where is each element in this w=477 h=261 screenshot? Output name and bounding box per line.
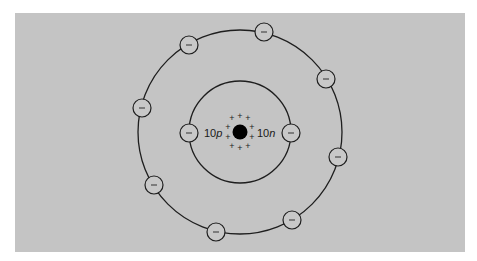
plus-icon: +	[225, 122, 230, 132]
plus-icon: +	[237, 143, 242, 153]
plus-icon: +	[237, 111, 242, 121]
protons-label: 10p	[204, 127, 222, 139]
electron	[329, 148, 347, 166]
electron	[207, 223, 225, 241]
neutrons-label: 10n	[257, 127, 275, 139]
electron	[133, 99, 151, 117]
electron	[145, 176, 163, 194]
nucleus	[233, 125, 248, 140]
electron	[282, 124, 300, 142]
electron	[180, 124, 198, 142]
electron	[180, 36, 198, 54]
plus-icon: +	[249, 122, 254, 132]
electron	[283, 211, 301, 229]
electron	[317, 70, 335, 88]
electron	[255, 23, 273, 41]
plus-icon: +	[245, 141, 250, 151]
plus-icon: +	[229, 141, 234, 151]
atom-diagram: + + + + + + + + + + 10p 10n	[0, 0, 477, 261]
